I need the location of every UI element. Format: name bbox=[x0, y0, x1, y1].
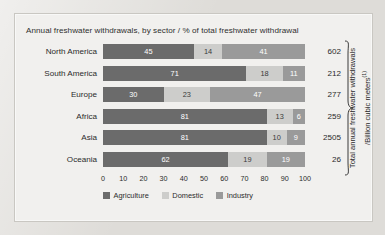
x-tick-100: 100 bbox=[299, 174, 311, 183]
row-total-north-america: 602 bbox=[311, 42, 341, 61]
bar-row-north-america: North America 45 14 41 602 bbox=[15, 42, 372, 61]
stacked-bar-africa: 81 13 6 bbox=[103, 109, 305, 124]
category-label-south-america: South America bbox=[15, 64, 97, 83]
legend-swatch-icon bbox=[162, 192, 169, 199]
x-tick-30: 30 bbox=[160, 174, 168, 183]
totals-footnote-marker: (1) bbox=[361, 71, 367, 77]
stacked-bar-south-america: 71 18 11 bbox=[103, 66, 305, 81]
row-total-south-america: 212 bbox=[311, 64, 341, 83]
bar-segment-industry: 19 bbox=[267, 152, 305, 167]
bar-segment-agriculture: 81 bbox=[103, 109, 267, 124]
x-tick-90: 90 bbox=[281, 174, 289, 183]
category-label-north-america: North America bbox=[15, 42, 97, 61]
category-label-asia: Asia bbox=[15, 128, 97, 147]
x-tick-40: 40 bbox=[180, 174, 188, 183]
bar-segment-agriculture: 45 bbox=[103, 44, 194, 59]
totals-axis-caption: Total annual freshwater withdrawals /Bil… bbox=[348, 32, 372, 184]
bar-segment-domestic: 23 bbox=[164, 87, 210, 102]
x-tick-20: 20 bbox=[139, 174, 147, 183]
row-total-oceania: 26 bbox=[311, 150, 341, 169]
stacked-bar-north-america: 45 14 41 bbox=[103, 44, 305, 59]
scanned-page: Annual freshwater withdrawals, by sector… bbox=[0, 0, 385, 235]
bar-segment-industry: 9 bbox=[287, 130, 305, 145]
totals-caption-line1: Total annual freshwater withdrawals bbox=[348, 48, 357, 168]
chart-title: Annual freshwater withdrawals, by sector… bbox=[26, 26, 364, 35]
x-tick-50: 50 bbox=[200, 174, 208, 183]
bar-segment-domestic: 13 bbox=[267, 109, 293, 124]
x-tick-70: 70 bbox=[240, 174, 248, 183]
legend-label-agriculture: Agriculture bbox=[114, 191, 149, 200]
x-axis-tick-labels: 0 10 20 30 40 50 60 70 80 90 100 bbox=[103, 174, 305, 186]
legend-item-industry: Industry bbox=[216, 191, 253, 200]
legend-label-domestic: Domestic bbox=[172, 191, 203, 200]
bar-segment-industry: 11 bbox=[283, 66, 305, 81]
bar-segment-agriculture: 30 bbox=[103, 87, 164, 102]
bar-row-south-america: South America 71 18 11 212 bbox=[15, 64, 372, 83]
category-label-europe: Europe bbox=[15, 85, 97, 104]
x-tick-0: 0 bbox=[101, 174, 105, 183]
category-label-oceania: Oceania bbox=[15, 150, 97, 169]
bar-row-europe: Europe 30 23 47 277 bbox=[15, 85, 372, 104]
legend-label-industry: Industry bbox=[227, 191, 253, 200]
chart-legend: Agriculture Domestic Industry bbox=[103, 189, 333, 201]
x-tick-10: 10 bbox=[119, 174, 127, 183]
bar-segment-industry: 47 bbox=[210, 87, 305, 102]
stacked-bar-europe: 30 23 47 bbox=[103, 87, 305, 102]
legend-swatch-icon bbox=[103, 192, 110, 199]
bar-segment-domestic: 19 bbox=[228, 152, 266, 167]
bar-segment-industry: 6 bbox=[293, 109, 305, 124]
row-total-europe: 277 bbox=[311, 85, 341, 104]
bar-segment-industry: 41 bbox=[222, 44, 305, 59]
bar-segment-agriculture: 71 bbox=[103, 66, 246, 81]
bar-row-asia: Asia 81 10 9 2505 bbox=[15, 128, 372, 147]
bar-segment-agriculture: 62 bbox=[103, 152, 228, 167]
legend-swatch-icon bbox=[216, 192, 223, 199]
row-total-asia: 2505 bbox=[311, 128, 341, 147]
x-tick-60: 60 bbox=[220, 174, 228, 183]
bar-segment-domestic: 18 bbox=[246, 66, 282, 81]
stacked-bar-oceania: 62 19 19 bbox=[103, 152, 305, 167]
x-tick-80: 80 bbox=[261, 174, 269, 183]
bar-row-africa: Africa 81 13 6 259 bbox=[15, 107, 372, 126]
bar-segment-domestic: 14 bbox=[194, 44, 222, 59]
row-total-africa: 259 bbox=[311, 107, 341, 126]
bar-row-oceania: Oceania 62 19 19 26 bbox=[15, 150, 372, 169]
category-label-africa: Africa bbox=[15, 107, 97, 126]
stacked-bar-asia: 81 10 9 bbox=[103, 130, 305, 145]
legend-item-domestic: Domestic bbox=[162, 191, 203, 200]
totals-caption-line2: /Billion cubic meters bbox=[362, 77, 371, 145]
bar-segment-domestic: 10 bbox=[267, 130, 287, 145]
bar-segment-agriculture: 81 bbox=[103, 130, 267, 145]
legend-item-agriculture: Agriculture bbox=[103, 191, 149, 200]
stacked-bar-plot: North America 45 14 41 602 South America… bbox=[15, 42, 372, 172]
figure-frame: Annual freshwater withdrawals, by sector… bbox=[14, 13, 373, 222]
